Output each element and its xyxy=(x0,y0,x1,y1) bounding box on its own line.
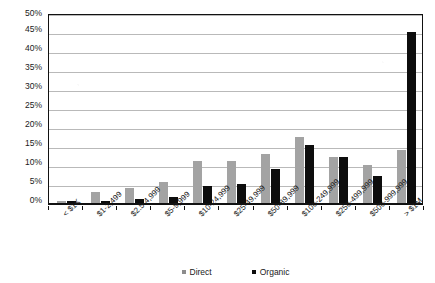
x-axis-tick xyxy=(423,206,424,210)
bar-group xyxy=(363,13,382,203)
x-axis-tick xyxy=(150,206,151,210)
x-axis-tick xyxy=(218,206,219,210)
bar-group xyxy=(295,13,314,203)
x-axis-tick xyxy=(116,206,117,210)
y-axis-tick-label: 20% xyxy=(0,120,42,129)
bar-direct xyxy=(91,192,100,203)
y-axis-tick-label: 50% xyxy=(0,9,42,18)
y-axis-tick-label: 15% xyxy=(0,139,42,148)
bar-direct xyxy=(261,154,270,203)
y-axis-tick-label: 35% xyxy=(0,63,42,72)
y-axis-tick-label: 0% xyxy=(0,196,42,205)
x-axis-tick xyxy=(287,206,288,210)
square-marker-black-icon xyxy=(252,270,256,274)
square-marker-gray-icon xyxy=(182,270,186,274)
bar-direct xyxy=(125,188,134,203)
legend-item-organic: Organic xyxy=(252,268,290,277)
y-axis-tick-label: 30% xyxy=(0,82,42,91)
x-axis-tick xyxy=(253,206,254,210)
y-axis-tick-label: 10% xyxy=(0,158,42,167)
bar-group xyxy=(329,13,348,203)
x-axis-tick xyxy=(321,206,322,210)
x-axis-tick xyxy=(355,206,356,210)
legend-item-direct: Direct xyxy=(182,268,212,277)
y-axis-tick-label: 25% xyxy=(0,101,42,110)
chart-legend: Direct Organic xyxy=(48,264,423,280)
bar-organic xyxy=(407,32,416,203)
bar-chart: 0% 5% 10% 15% 20% 25% 30% 35% 40% 45% 50… xyxy=(0,0,435,283)
x-axis-tick xyxy=(389,206,390,210)
legend-label: Direct xyxy=(190,268,212,277)
x-axis: < $1K$1-2,499$2.5-4,999$5-9,999$10-24,99… xyxy=(48,206,423,266)
y-axis-tick-label: 40% xyxy=(0,44,42,53)
bar-group xyxy=(159,13,178,203)
bar-group xyxy=(227,13,246,203)
y-axis: 0% 5% 10% 15% 20% 25% 30% 35% 40% 45% 50… xyxy=(0,0,44,283)
bar-group xyxy=(125,13,144,203)
bar-direct xyxy=(227,161,236,203)
x-axis-tick xyxy=(48,206,49,210)
bar-group xyxy=(397,13,416,203)
x-axis-tick xyxy=(82,206,83,210)
y-axis-tick-label: 45% xyxy=(0,25,42,34)
bar-group xyxy=(91,13,110,203)
bar-organic xyxy=(305,145,314,203)
bar-organic xyxy=(339,157,348,203)
legend-label: Organic xyxy=(260,268,290,277)
y-axis-tick-label: 5% xyxy=(0,177,42,186)
bar-direct xyxy=(193,161,202,203)
bar-direct xyxy=(57,201,66,203)
bar-group xyxy=(193,13,212,203)
bar-group xyxy=(261,13,280,203)
bar-group xyxy=(57,13,76,203)
plot-area xyxy=(48,14,423,205)
x-axis-tick xyxy=(184,206,185,210)
